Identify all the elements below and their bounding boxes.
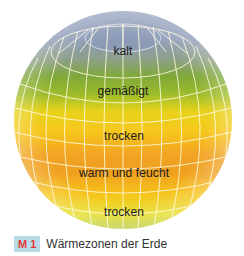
caption-text: Wärmezonen der Erde bbox=[46, 237, 167, 251]
figure-caption: M 1 Wärmezonen der Erde bbox=[14, 236, 167, 252]
zone-label-dry-north: trocken bbox=[104, 129, 144, 143]
zone-label-temperate: gemäßigt bbox=[98, 84, 149, 98]
zone-label-warm-humid: warm und feucht bbox=[79, 166, 169, 180]
globe-diagram: kalt gemäßigt trocken warm und feucht tr… bbox=[0, 0, 244, 235]
zone-label-cold: kalt bbox=[113, 44, 132, 58]
caption-badge: M 1 bbox=[14, 236, 40, 252]
globe-sphere bbox=[0, 0, 244, 235]
zone-label-dry-south: trocken bbox=[104, 205, 144, 219]
